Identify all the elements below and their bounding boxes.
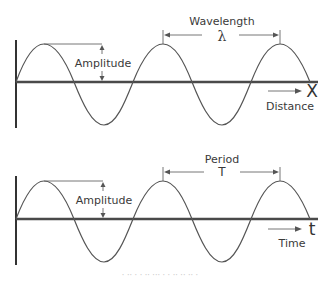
t-axis-letter: t — [309, 219, 316, 239]
x-axis-letter: X — [306, 81, 318, 101]
wavelength-right-arrow-icon — [273, 33, 279, 38]
period-left-arrow-icon — [164, 170, 170, 175]
amplitude-arrow-down-icon — [100, 76, 105, 81]
amplitude-label: Amplitude — [76, 194, 133, 207]
lambda-symbol: λ — [218, 28, 227, 44]
distance-arrow-icon — [295, 88, 302, 93]
sine-wave — [16, 181, 310, 262]
amplitude-arrow-up-icon — [100, 45, 105, 50]
amplitude-arrow-up-icon — [101, 182, 106, 187]
period-right-arrow-icon — [273, 170, 279, 175]
time-wave-diagram: Amplitude Period T t Time — [16, 153, 318, 265]
wave-diagram-canvas: Amplitude Wavelength λ X Distance Amplit… — [0, 0, 334, 282]
time-label: Time — [278, 237, 306, 250]
distance-wave-diagram: Amplitude Wavelength λ X Distance — [16, 15, 318, 128]
wavelength-left-arrow-icon — [164, 33, 170, 38]
amplitude-arrow-down-icon — [101, 213, 106, 218]
wavelength-label: Wavelength — [189, 15, 254, 28]
amplitude-label: Amplitude — [75, 57, 132, 70]
caption-text: · ·· · · ·· ··· · · ·· ·· ·· · — [122, 271, 198, 280]
time-arrow-icon — [295, 226, 302, 231]
distance-label: Distance — [266, 100, 314, 113]
period-symbol: T — [217, 165, 226, 179]
